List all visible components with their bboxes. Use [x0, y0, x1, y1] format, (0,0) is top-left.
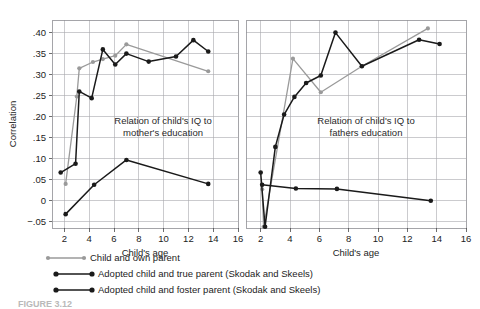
- ytick-label-0: 0: [41, 195, 46, 206]
- data-point-left-0-3: [91, 60, 95, 64]
- panel-annotation-left-line1: Relation of child's IQ to: [114, 115, 211, 126]
- ytick-label-.35: .35: [33, 48, 46, 59]
- series-line-left-2: [66, 160, 209, 214]
- data-point-right-0-5: [426, 26, 430, 30]
- ytick-label-.25: .25: [33, 90, 46, 101]
- xtick-label-left-2: 2: [62, 233, 67, 244]
- ytick-label-.40: .40: [33, 27, 46, 38]
- chart-canvas: 246810121416Child's age246810121416Child…: [0, 0, 480, 309]
- legend-marker-end-0: [82, 256, 86, 260]
- legend-marker-end-1: [89, 271, 94, 276]
- xtick-label-right-8: 8: [346, 233, 351, 244]
- xtick-label-right-2: 2: [258, 233, 263, 244]
- data-point-left-1-8: [174, 54, 179, 59]
- data-point-left-0-2: [77, 66, 81, 70]
- ytick-label-.10: .10: [33, 153, 46, 164]
- legend-label-2: Adopted child and foster parent (Skodak …: [98, 284, 320, 295]
- data-point-left-1-6: [124, 51, 129, 56]
- data-point-left-2-2: [124, 158, 129, 163]
- legend-marker-start-0: [46, 256, 50, 260]
- data-point-right-0-2: [291, 57, 295, 61]
- figure-caption: FIGURE 3.12: [18, 299, 72, 309]
- ytick-label-.30: .30: [33, 69, 46, 80]
- legend-item-1: Adopted child and true parent (Skodak an…: [53, 268, 313, 279]
- figure-container: 246810121416Child's age246810121416Child…: [0, 0, 480, 309]
- data-point-right-1-5: [304, 81, 309, 86]
- legend-marker-start-1: [53, 271, 58, 276]
- legend-item-0: Child and own parent: [46, 252, 180, 263]
- x-axis-title-right: Child's age: [333, 247, 380, 258]
- xtick-label-left-8: 8: [136, 233, 141, 244]
- legend-marker-start-2: [53, 287, 58, 292]
- xtick-label-left-6: 6: [111, 233, 116, 244]
- data-point-left-1-3: [89, 96, 94, 101]
- ytick-label-.05: .05: [33, 174, 46, 185]
- xtick-label-left-12: 12: [183, 233, 194, 244]
- xtick-label-right-10: 10: [373, 233, 384, 244]
- data-point-left-0-5: [113, 54, 117, 58]
- data-point-right-2-2: [335, 187, 340, 192]
- data-point-left-1-1: [73, 161, 78, 166]
- data-point-right-1-1: [263, 224, 268, 229]
- data-point-right-2-3: [429, 198, 434, 203]
- ytick-label-.15: .15: [33, 132, 46, 143]
- data-point-right-1-7: [333, 30, 338, 35]
- legend-label-1: Adopted child and true parent (Skodak an…: [98, 268, 313, 279]
- data-point-right-1-0: [258, 170, 263, 175]
- xtick-label-left-14: 14: [208, 233, 219, 244]
- ytick-label-−.05: −.05: [27, 216, 46, 227]
- panel-annotation-right-line1: Relation of child's IQ to: [317, 115, 414, 126]
- data-point-right-1-10: [437, 42, 442, 47]
- legend-label-0: Child and own parent: [90, 252, 180, 263]
- data-point-left-1-2: [77, 89, 82, 94]
- legend-item-2: Adopted child and foster parent (Skodak …: [53, 284, 320, 295]
- data-point-left-0-0: [64, 182, 68, 186]
- data-point-left-1-9: [191, 38, 196, 43]
- panel-annotation-right-line2: fathers education: [330, 127, 403, 138]
- data-point-left-1-7: [146, 59, 151, 64]
- series-line-left-1: [61, 40, 209, 172]
- data-point-left-1-4: [101, 47, 106, 52]
- panel-annotations-layer: Relation of child's IQ tomother's educat…: [114, 115, 414, 138]
- xtick-label-right-6: 6: [317, 233, 322, 244]
- data-point-left-0-6: [124, 42, 128, 46]
- xtick-label-right-14: 14: [431, 233, 442, 244]
- data-point-right-1-3: [282, 112, 287, 117]
- xtick-label-left-16: 16: [233, 233, 244, 244]
- series-line-right-2: [262, 185, 431, 201]
- xtick-label-right-4: 4: [287, 233, 292, 244]
- data-point-right-1-4: [292, 95, 297, 100]
- data-point-right-0-3: [319, 90, 323, 94]
- data-point-left-2-0: [63, 212, 68, 217]
- xtick-label-left-4: 4: [87, 233, 92, 244]
- y-axis-title: Correlation: [7, 101, 18, 147]
- data-point-left-1-5: [113, 62, 118, 67]
- data-point-right-2-1: [294, 186, 299, 191]
- ytick-label-.20: .20: [33, 111, 46, 122]
- figure-caption-text: FIGURE 3.12: [18, 299, 72, 309]
- data-point-left-2-3: [206, 182, 211, 187]
- data-point-left-2-1: [92, 182, 97, 187]
- data-point-left-1-10: [206, 49, 211, 54]
- legend-marker-end-2: [89, 287, 94, 292]
- data-point-right-1-9: [417, 37, 422, 42]
- data-point-right-1-8: [360, 64, 365, 69]
- xtick-label-right-12: 12: [402, 233, 413, 244]
- legend: Child and own parentAdopted child and tr…: [46, 252, 320, 295]
- data-point-left-1-0: [58, 170, 63, 175]
- data-point-right-1-6: [319, 73, 324, 78]
- xtick-label-left-10: 10: [158, 233, 169, 244]
- data-point-right-1-2: [273, 145, 278, 150]
- panel-annotation-left-line2: mother's education: [123, 127, 203, 138]
- xtick-label-right-16: 16: [461, 233, 472, 244]
- data-point-left-0-7: [206, 69, 210, 73]
